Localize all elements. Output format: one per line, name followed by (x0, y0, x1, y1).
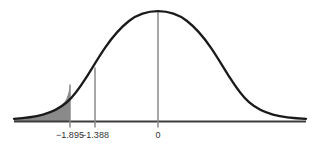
tick-label-critical-value: −1.895 (56, 130, 84, 140)
normal-density-curve (14, 11, 306, 119)
tick-label-test-statistic: −1.388 (81, 130, 109, 140)
tick-label-mean: 0 (155, 130, 160, 140)
normal-distribution-figure: −1.895 −1.388 0 (0, 0, 317, 153)
